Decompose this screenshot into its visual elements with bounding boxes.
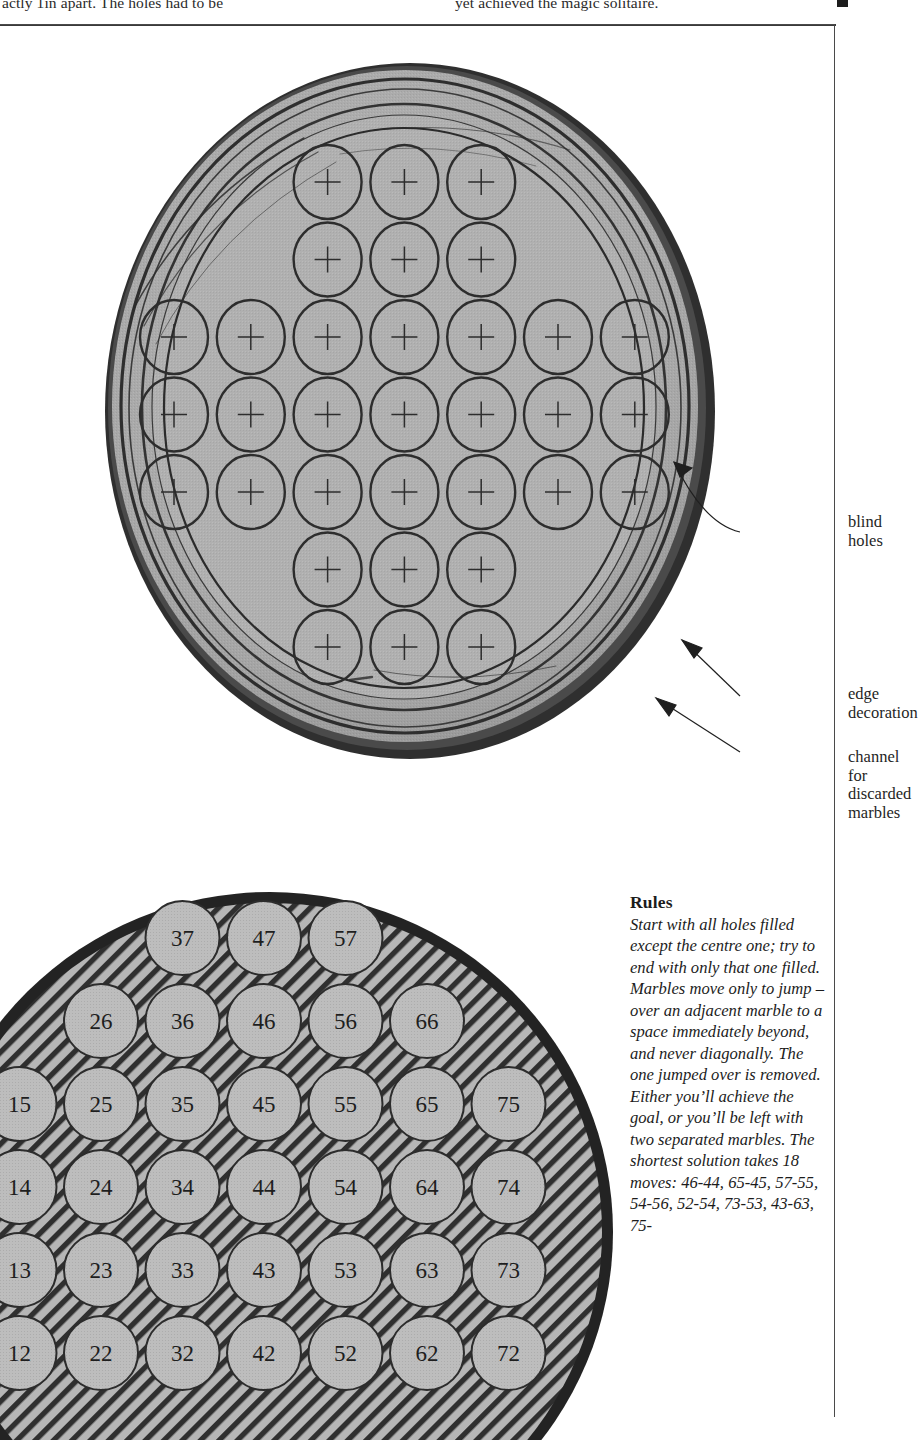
solitaire-board-photo: blind holes edge decoration channel for … <box>104 58 724 788</box>
numbered-hole-label: 57 <box>334 926 357 951</box>
end-of-article-square-icon <box>837 0 848 7</box>
top-text-left-column: actly 1in apart. The holes had to be <box>2 0 422 12</box>
numbered-hole-label: 73 <box>497 1258 520 1283</box>
numbered-hole-label: 56 <box>334 1009 357 1034</box>
numbered-hole-label: 37 <box>171 926 194 951</box>
numbered-hole-label: 44 <box>253 1175 277 1200</box>
numbered-board-diagram: 3747572636465666152535455565751424344454… <box>0 880 620 1440</box>
callout-channel-discarded-marbles: channel for discarded marbles <box>848 748 911 823</box>
numbered-hole-label: 12 <box>8 1341 31 1366</box>
numbered-hole-label: 64 <box>416 1175 440 1200</box>
numbered-hole-label: 35 <box>171 1092 194 1117</box>
numbered-hole-label: 33 <box>171 1258 194 1283</box>
numbered-hole-label: 65 <box>416 1092 439 1117</box>
numbered-hole-label: 25 <box>90 1092 113 1117</box>
numbered-hole-label: 42 <box>253 1341 276 1366</box>
numbered-hole-label: 15 <box>8 1092 31 1117</box>
numbered-hole-label: 36 <box>171 1009 194 1034</box>
numbered-hole-label: 34 <box>171 1175 195 1200</box>
board-illustration <box>104 58 724 788</box>
rules-body: Start with all holes filled except the c… <box>630 914 830 1236</box>
numbered-hole-label: 23 <box>90 1258 113 1283</box>
rules-panel: Rules Start with all holes filled except… <box>630 892 830 1236</box>
numbered-hole-label: 66 <box>416 1009 439 1034</box>
numbered-hole-label: 13 <box>8 1258 31 1283</box>
numbered-hole-label: 22 <box>90 1341 113 1366</box>
numbered-hole-label: 54 <box>334 1175 358 1200</box>
numbered-hole-label: 14 <box>8 1175 32 1200</box>
numbered-hole-label: 63 <box>416 1258 439 1283</box>
numbered-hole-label: 24 <box>90 1175 114 1200</box>
numbered-diagram-svg: 3747572636465666152535455565751424344454… <box>0 880 620 1440</box>
rules-heading: Rules <box>630 892 830 913</box>
numbered-hole-label: 62 <box>416 1341 439 1366</box>
numbered-hole-label: 32 <box>171 1341 194 1366</box>
numbered-hole-label: 72 <box>497 1341 520 1366</box>
callout-blind-holes: blind holes <box>848 513 883 550</box>
numbered-hole-label: 43 <box>253 1258 276 1283</box>
numbered-hole-label: 45 <box>253 1092 276 1117</box>
callout-edge-decoration: edge decoration <box>848 685 918 722</box>
top-text-right-column: yet achieved the magic solitaire. <box>455 0 658 12</box>
numbered-hole-label: 52 <box>334 1341 357 1366</box>
numbered-hole-label: 46 <box>253 1009 276 1034</box>
numbered-hole-label: 75 <box>497 1092 520 1117</box>
numbered-hole-label: 55 <box>334 1092 357 1117</box>
numbered-hole-label: 74 <box>497 1175 521 1200</box>
numbered-hole-label: 26 <box>90 1009 113 1034</box>
numbered-hole-label: 47 <box>253 926 276 951</box>
page-top-running-text: actly 1in apart. The holes had to be yet… <box>0 0 870 16</box>
numbered-hole-label: 53 <box>334 1258 357 1283</box>
